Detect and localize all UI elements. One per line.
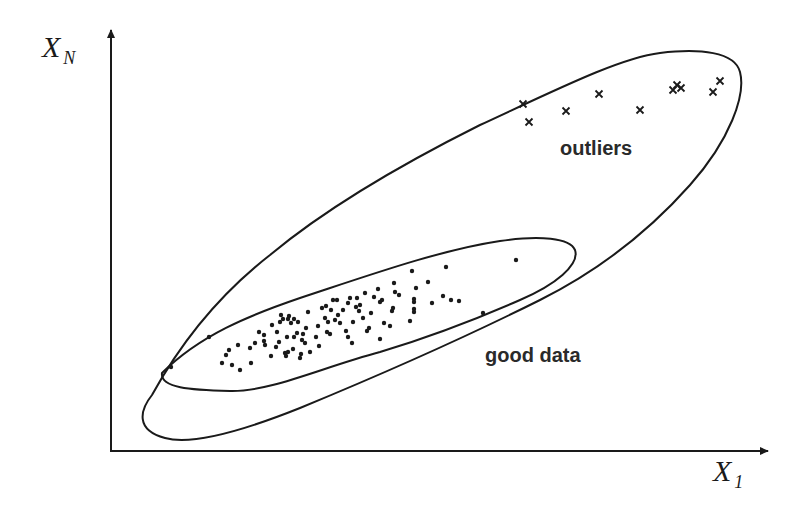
outlier-point-x-icon bbox=[563, 108, 570, 115]
good-data-point bbox=[220, 361, 224, 365]
good-data-point bbox=[291, 347, 295, 351]
good-data-point bbox=[292, 335, 296, 339]
good-data-point bbox=[269, 354, 273, 358]
good-data-point bbox=[335, 298, 339, 302]
good-data-points bbox=[169, 258, 518, 372]
good-data-point bbox=[378, 337, 382, 341]
outlier-point-x-icon bbox=[710, 89, 717, 96]
good-data-point bbox=[367, 326, 371, 330]
good-data-point bbox=[295, 331, 299, 335]
good-data-point bbox=[457, 299, 461, 303]
good-data-point bbox=[441, 294, 445, 298]
good-data-point bbox=[262, 333, 266, 337]
good-data-point bbox=[331, 298, 335, 302]
good-data-point bbox=[279, 313, 283, 317]
good-data-point bbox=[481, 311, 485, 315]
good-data-point bbox=[369, 311, 373, 315]
good-data-point bbox=[249, 361, 253, 365]
good-data-point bbox=[323, 316, 327, 320]
good-data-point bbox=[262, 339, 266, 343]
good-data-point bbox=[361, 316, 365, 320]
good-data-point bbox=[354, 305, 358, 309]
good-data-point bbox=[412, 310, 416, 314]
good-data-point bbox=[314, 335, 318, 339]
good-data-point bbox=[449, 298, 453, 302]
good-data-label: good data bbox=[485, 344, 581, 366]
good-data-point bbox=[287, 314, 291, 318]
good-data-point bbox=[346, 335, 350, 339]
good-data-point bbox=[308, 350, 312, 354]
good-data-point bbox=[274, 345, 278, 349]
good-data-point bbox=[348, 296, 352, 300]
good-data-point bbox=[277, 340, 281, 344]
good-data-point bbox=[224, 353, 228, 357]
good-data-point bbox=[236, 343, 240, 347]
good-data-point bbox=[393, 290, 397, 294]
good-data-point bbox=[397, 293, 401, 297]
good-data-point bbox=[444, 265, 448, 269]
outlier-points bbox=[520, 78, 724, 126]
good-data-point bbox=[248, 346, 252, 350]
good-data-point bbox=[281, 317, 285, 321]
good-data-point bbox=[263, 343, 267, 347]
good-data-point bbox=[336, 313, 340, 317]
good-data-point bbox=[355, 296, 359, 300]
good-data-point bbox=[430, 301, 434, 305]
good-data-point bbox=[306, 310, 310, 314]
good-data-point bbox=[324, 304, 328, 308]
good-data-point bbox=[257, 330, 261, 334]
outer-ellipse bbox=[143, 51, 742, 440]
good-data-point bbox=[351, 320, 355, 324]
good-data-point bbox=[326, 320, 330, 324]
good-data-point bbox=[286, 350, 290, 354]
good-data-point bbox=[412, 300, 416, 304]
good-data-point bbox=[372, 295, 376, 299]
outlier-point-x-icon bbox=[596, 91, 603, 98]
good-data-point bbox=[376, 287, 380, 291]
good-data-point bbox=[317, 344, 321, 348]
y-axis-label: XN bbox=[41, 30, 76, 68]
good-data-point bbox=[292, 317, 296, 321]
inner-ellipse bbox=[162, 238, 576, 391]
good-data-point bbox=[304, 326, 308, 330]
good-data-point bbox=[410, 269, 414, 273]
good-data-point bbox=[350, 341, 354, 345]
good-data-point bbox=[514, 258, 518, 262]
good-data-point bbox=[363, 291, 367, 295]
good-data-point bbox=[316, 324, 320, 328]
good-data-point bbox=[346, 301, 350, 305]
good-data-point bbox=[207, 335, 211, 339]
good-data-point bbox=[344, 329, 348, 333]
good-data-point bbox=[392, 281, 396, 285]
good-data-point bbox=[169, 365, 173, 369]
good-data-point bbox=[298, 356, 302, 360]
outlier-point-x-icon bbox=[678, 85, 685, 92]
good-data-point bbox=[285, 335, 289, 339]
good-data-point bbox=[238, 368, 242, 372]
good-data-point bbox=[301, 332, 305, 336]
x-axis-label: X1 bbox=[712, 454, 743, 492]
good-data-point bbox=[426, 280, 430, 284]
good-data-point bbox=[253, 341, 257, 345]
good-data-point bbox=[388, 324, 392, 328]
good-data-point bbox=[333, 318, 337, 322]
outlier-detection-diagram: XN X1 outliers good data bbox=[0, 0, 811, 525]
good-data-point bbox=[289, 321, 293, 325]
y-axis-label-subscript: N bbox=[62, 48, 76, 68]
good-data-point bbox=[275, 330, 279, 334]
good-data-point bbox=[296, 320, 300, 324]
good-data-point bbox=[328, 332, 332, 336]
outlier-point-x-icon bbox=[717, 78, 724, 85]
good-data-point bbox=[227, 348, 231, 352]
outliers-label: outliers bbox=[560, 137, 632, 159]
good-data-point bbox=[329, 308, 333, 312]
y-axis-label-main: X bbox=[41, 30, 62, 63]
good-data-point bbox=[299, 352, 303, 356]
good-data-point bbox=[270, 323, 274, 327]
good-data-point bbox=[230, 363, 234, 367]
good-data-point bbox=[391, 306, 395, 310]
good-data-point bbox=[357, 309, 361, 313]
good-data-point bbox=[358, 303, 362, 307]
good-data-point bbox=[408, 319, 412, 323]
good-data-point bbox=[414, 286, 418, 290]
